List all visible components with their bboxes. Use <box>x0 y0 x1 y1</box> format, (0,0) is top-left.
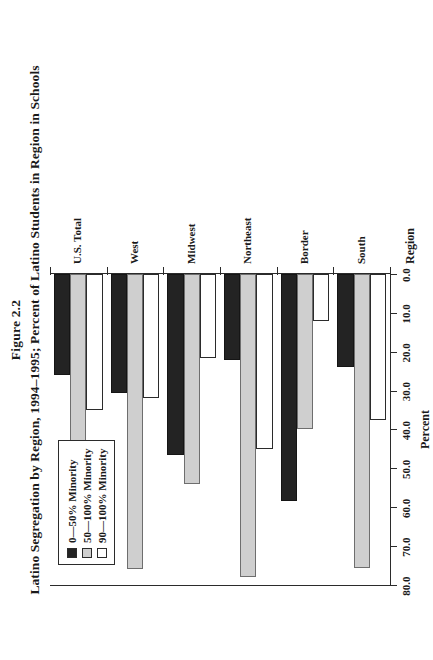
legend-item: 50—100% Minority <box>79 449 94 558</box>
bar-midwest-series-2 <box>200 274 216 358</box>
bar-south-series-0 <box>337 274 353 367</box>
category-label: West <box>128 241 142 264</box>
category-tick <box>277 267 278 275</box>
legend: 0—50% Minority50—100% Minority90—100% Mi… <box>58 440 115 565</box>
legend-swatch-icon <box>82 548 92 558</box>
category-label: Midwest <box>185 224 199 264</box>
category-tick <box>50 267 51 275</box>
value-axis-label: Percent <box>418 273 433 586</box>
value-tick <box>390 585 397 586</box>
value-tick <box>390 352 397 353</box>
bar-northeast-series-2 <box>256 274 272 449</box>
category-label: Northeast <box>241 218 255 264</box>
bar-u-s-total-series-0 <box>54 274 70 375</box>
value-tick-label: 80.0 <box>400 563 412 609</box>
value-tick <box>390 313 397 314</box>
bar-northeast-series-0 <box>224 274 240 360</box>
figure-number: Figure 2.2 <box>8 0 24 660</box>
bar-midwest-series-0 <box>167 274 183 455</box>
legend-swatch-icon <box>67 548 77 558</box>
legend-item: 0—50% Minority <box>64 449 79 558</box>
legend-item: 90—100% Minority <box>94 449 109 558</box>
category-tick <box>163 267 164 275</box>
legend-label: 0—50% Minority <box>66 460 78 543</box>
bar-south-series-1 <box>354 274 370 568</box>
category-axis-label: Region <box>403 228 418 264</box>
bar-midwest-series-1 <box>184 274 200 484</box>
category-label: Border <box>298 230 312 264</box>
category-tick <box>107 267 108 275</box>
bar-u-s-total-series-2 <box>86 274 102 410</box>
bar-border-series-0 <box>281 274 297 501</box>
value-tick <box>390 391 397 392</box>
value-tick <box>390 507 397 508</box>
bar-border-series-1 <box>297 274 313 430</box>
legend-label: 90—100% Minority <box>96 449 108 543</box>
legend-swatch-icon <box>97 548 107 558</box>
value-tick <box>390 546 397 547</box>
value-tick <box>390 274 397 275</box>
category-tick <box>220 267 221 275</box>
legend-label: 50—100% Minority <box>81 449 93 543</box>
category-label: U.S. Total <box>71 218 85 264</box>
value-tick <box>390 430 397 431</box>
bar-border-series-2 <box>313 274 329 321</box>
category-tick <box>333 267 334 275</box>
category-label: South <box>355 236 369 264</box>
bar-south-series-2 <box>370 274 386 420</box>
bar-west-series-0 <box>111 274 127 393</box>
bar-northeast-series-1 <box>240 274 256 577</box>
bar-west-series-2 <box>143 274 159 398</box>
figure-title: Latino Segregation by Region, 1994–1995;… <box>27 0 43 660</box>
bar-west-series-1 <box>127 274 143 569</box>
value-tick <box>390 468 397 469</box>
category-tick <box>390 267 391 275</box>
